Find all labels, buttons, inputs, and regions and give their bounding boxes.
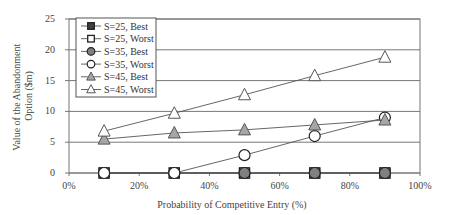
circle-marker-icon [309,131,320,142]
y-tick-label: 5 [50,136,55,147]
triangle-marker-icon [168,126,180,138]
circle-marker-icon [309,168,320,179]
legend-item: S=35, Best [81,46,148,57]
circle-marker-icon [379,168,390,179]
circle-marker-icon [87,60,95,68]
square-marker-icon [88,35,95,42]
legend-label: S=45, Worst [104,84,154,95]
triangle-marker-icon [239,123,251,135]
legend-label: S=25, Worst [104,33,154,44]
circle-marker-icon [99,168,110,179]
legend-item: S=25, Best [81,21,148,32]
legend-item: S=25, Worst [81,33,154,44]
legend-label: S=25, Best [104,21,148,32]
circle-marker-icon [87,48,95,56]
x-tick-label: 40% [200,180,218,191]
square-marker-icon [88,23,95,30]
y-axis-title-line-2: Option ($m) [23,71,35,121]
y-tick-label: 25 [45,13,55,24]
triangle-marker-icon [309,118,321,129]
circle-marker-icon [239,168,250,179]
legend-label: S=35, Worst [104,59,154,70]
x-axis-title: Probability of Competitive Entry (%) [157,199,306,211]
y-axis-title: Value of the Abandonment Option ($m) [11,41,35,150]
y-tick-label: 20 [45,44,55,55]
legend-label: S=35, Best [104,46,148,57]
circle-marker-icon [169,168,180,179]
legend-item: S=35, Worst [81,59,154,70]
y-axis-title-line-1: Value of the Abandonment [11,44,22,151]
triangle-marker-icon [379,51,391,63]
circle-marker-icon [239,150,250,161]
legend: S=25, BestS=25, WorstS=35, BestS=35, Wor… [76,18,156,97]
legend-label: S=45, Best [104,71,148,82]
x-tick-label: 100% [408,180,431,191]
series-s-45-best [98,114,391,145]
x-tick-label: 80% [341,180,359,191]
abandonment-option-chart: 05101520250%20%40%60%80%100% S=25, BestS… [0,0,449,215]
x-tick-label: 0% [62,180,75,191]
y-tick-label: 15 [45,75,55,86]
y-tick-label: 10 [45,105,55,116]
x-tick-label: 60% [270,180,288,191]
y-tick-label: 0 [50,167,55,178]
x-tick-label: 20% [130,180,148,191]
